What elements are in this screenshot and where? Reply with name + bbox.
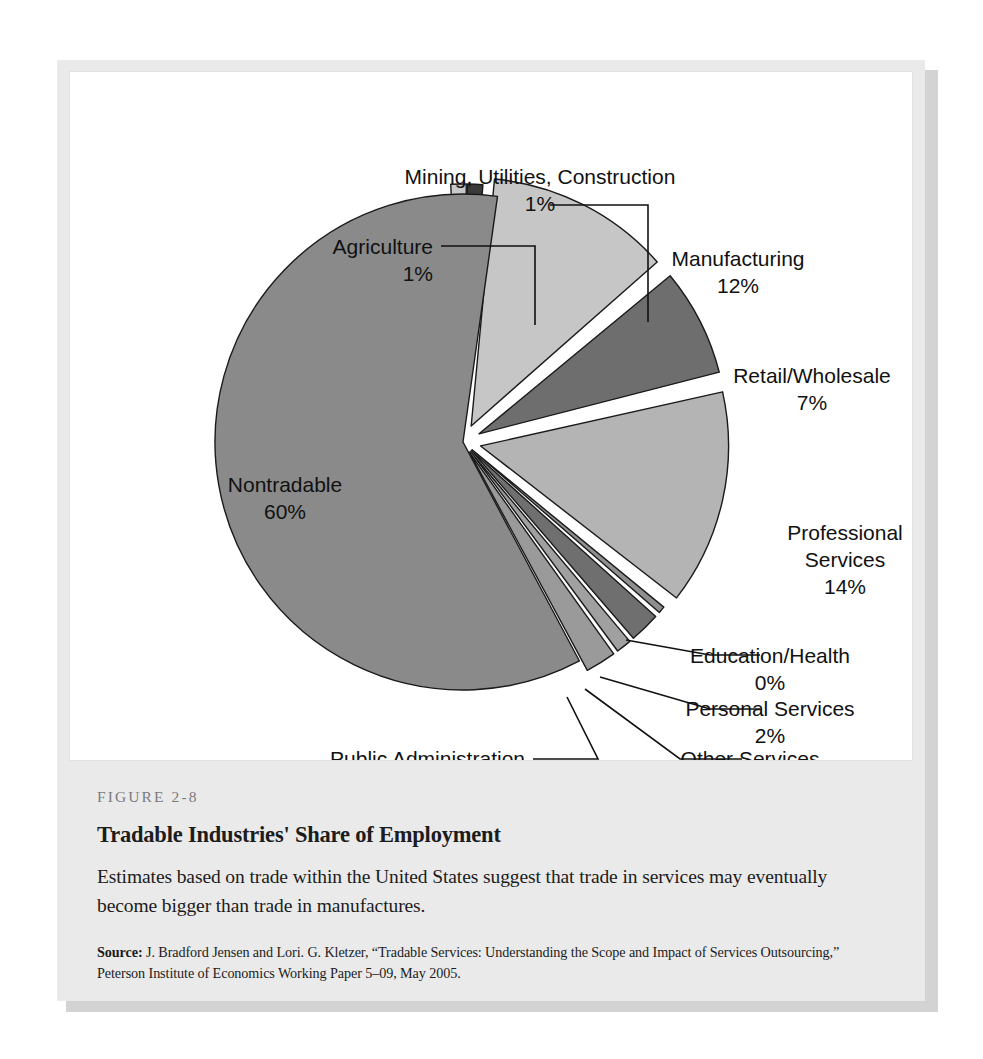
pie-value-agriculture: 1%: [403, 262, 433, 285]
pie-name-manufacturing: Manufacturing: [671, 247, 804, 270]
pie-value-manufacturing: 12%: [717, 274, 759, 297]
pie-label-education-health: Education/Health0%: [690, 644, 850, 694]
pie-value-nontradable: 60%: [264, 500, 306, 523]
figure-title: Tradable Industries' Share of Employment: [97, 822, 885, 848]
source-text: J. Bradford Jensen and Lori. G. Kletzer,…: [97, 944, 839, 981]
source-label: Source:: [97, 944, 143, 960]
pie-name-personal-services: Personal Services: [685, 697, 854, 720]
pie-name-public-administration: Public Administration: [330, 747, 525, 760]
pie-label-public-administration: Public Administration2%: [330, 747, 525, 760]
figure-source: Source: J. Bradford Jensen and Lori. G. …: [97, 942, 885, 984]
pie-name-agriculture: Agriculture: [333, 235, 433, 258]
pie-label-manufacturing: Manufacturing12%: [671, 247, 804, 297]
pie-name-retail-wholesale: Retail/Wholesale: [733, 364, 891, 387]
pie-label-professional-services: ProfessionalServices14%: [787, 521, 903, 598]
leader-line-public-administration: [533, 697, 598, 759]
chart-panel: Agriculture1%Mining, Utilities, Construc…: [69, 71, 913, 761]
pie-value-mining-utilities-construction: 1%: [525, 192, 555, 215]
figure-description: Estimates based on trade within the Unit…: [97, 862, 885, 920]
pie-name-mining-utilities-construction: Mining, Utilities, Construction: [405, 165, 676, 188]
pie-value-professional-services: 14%: [824, 575, 866, 598]
pie-label-personal-services: Personal Services2%: [685, 697, 854, 747]
page-root: the interest of the wo h tion supply tra…: [0, 0, 983, 1059]
figure-container: Agriculture1%Mining, Utilities, Construc…: [57, 60, 925, 1001]
pie-name-education-health: Education/Health: [690, 644, 850, 667]
pie-name-nontradable: Nontradable: [228, 473, 342, 496]
pie-label-retail-wholesale: Retail/Wholesale7%: [733, 364, 891, 414]
figure-caption-block: FIGURE 2-8 Tradable Industries' Share of…: [57, 772, 925, 1001]
pie-name-other-services: Other Services: [681, 747, 820, 760]
pie-label-other-services: Other Services1%: [681, 747, 820, 760]
pie-value-retail-wholesale: 7%: [797, 391, 827, 414]
pie-name-professional-services: Professional: [787, 521, 903, 544]
figure-number: FIGURE 2-8: [97, 772, 885, 806]
pie-name-professional-services: Services: [805, 548, 886, 571]
pie-chart: Agriculture1%Mining, Utilities, Construc…: [70, 72, 912, 760]
pie-value-personal-services: 2%: [755, 724, 785, 747]
pie-value-education-health: 0%: [755, 671, 785, 694]
